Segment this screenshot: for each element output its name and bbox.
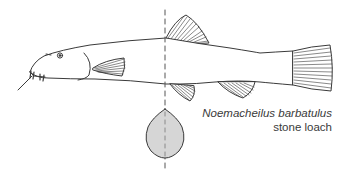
common-name: stone loach bbox=[202, 120, 332, 134]
caudal-fin bbox=[293, 45, 332, 91]
anal-fin bbox=[218, 82, 255, 98]
pelvic-fin bbox=[170, 84, 195, 101]
stone-loach-illustration bbox=[0, 0, 351, 176]
body-outline bbox=[30, 38, 293, 85]
scientific-name: Noemacheilus barbatulus bbox=[202, 106, 332, 120]
species-caption: Noemacheilus barbatulus stone loach bbox=[202, 106, 332, 134]
